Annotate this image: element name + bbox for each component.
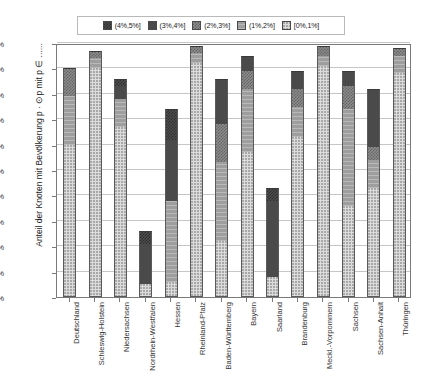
bar-segment[interactable] bbox=[367, 89, 380, 147]
bar-segment[interactable] bbox=[215, 124, 228, 162]
x-tick-mark bbox=[373, 298, 374, 302]
y-tick-mark bbox=[52, 120, 56, 121]
x-tick-mark bbox=[221, 298, 222, 302]
x-tick-label: Schleswig-Holstein bbox=[97, 302, 106, 365]
legend-entry: (1%,2%] bbox=[237, 21, 275, 30]
x-tick-label: Meckl.-Vorpommern bbox=[325, 302, 334, 369]
chart-legend: (4%,5%](3%,4%](2%,3%](1%,2%][0%,1%] bbox=[77, 16, 345, 35]
gray-solid-swatch bbox=[237, 21, 246, 30]
bar-segment[interactable] bbox=[63, 145, 76, 297]
bar-stack[interactable] bbox=[241, 56, 254, 297]
bar-stack[interactable] bbox=[63, 68, 76, 297]
bar-segment[interactable] bbox=[165, 201, 178, 282]
x-tick-mark bbox=[246, 298, 247, 302]
bar-stack[interactable] bbox=[393, 48, 406, 297]
bar-stack[interactable] bbox=[89, 51, 102, 297]
bar-stack[interactable] bbox=[317, 46, 330, 297]
bar-segment[interactable] bbox=[393, 56, 406, 74]
bar-segment[interactable] bbox=[139, 284, 152, 297]
legend-entry: (3%,4%] bbox=[148, 21, 186, 30]
bar-segment[interactable] bbox=[241, 71, 254, 89]
bar-stack[interactable] bbox=[342, 71, 355, 297]
bar-segment[interactable] bbox=[291, 71, 304, 89]
bar-segment[interactable] bbox=[291, 89, 304, 107]
bar-segment[interactable] bbox=[342, 86, 355, 109]
bar-segment[interactable] bbox=[291, 137, 304, 297]
y-tick-label: 0% bbox=[0, 294, 4, 303]
bar-segment[interactable] bbox=[190, 46, 203, 54]
bar-segment[interactable] bbox=[215, 241, 228, 297]
bar-segment[interactable] bbox=[317, 66, 330, 297]
bar-stack[interactable] bbox=[266, 188, 279, 297]
mid-checkered-swatch bbox=[192, 21, 201, 30]
y-tick-mark bbox=[52, 95, 56, 96]
y-tick-mark bbox=[52, 171, 56, 172]
gridline bbox=[57, 42, 410, 43]
x-tick-label: Deutschland bbox=[72, 302, 81, 344]
x-tick-mark bbox=[297, 298, 298, 302]
x-tick-label: Brandenburg bbox=[300, 302, 309, 345]
bar-segment[interactable] bbox=[291, 107, 304, 137]
bar-segment[interactable] bbox=[393, 48, 406, 56]
bar-stack[interactable] bbox=[190, 46, 203, 297]
stacked-bar-chart: (4%,5%](3%,4%](2%,3%](1%,2%][0%,1%] 0%10… bbox=[0, 0, 423, 388]
bar-segment[interactable] bbox=[367, 160, 380, 188]
bar-segment[interactable] bbox=[215, 79, 228, 125]
x-tick-mark bbox=[348, 298, 349, 302]
bar-stack[interactable] bbox=[367, 89, 380, 297]
bar-segment[interactable] bbox=[114, 86, 127, 99]
x-tick-mark bbox=[119, 298, 120, 302]
x-tick-label: Bayern bbox=[249, 302, 258, 326]
bar-segment[interactable] bbox=[190, 53, 203, 63]
bar-segment[interactable] bbox=[114, 79, 127, 87]
bar-segment[interactable] bbox=[114, 99, 127, 127]
bar-segment[interactable] bbox=[317, 56, 330, 66]
bar-segment[interactable] bbox=[165, 140, 178, 201]
bar-segment[interactable] bbox=[63, 68, 76, 96]
bar-segment[interactable] bbox=[139, 244, 152, 285]
bar-segment[interactable] bbox=[114, 127, 127, 297]
bar-segment[interactable] bbox=[266, 277, 279, 297]
bar-segment[interactable] bbox=[393, 73, 406, 297]
bar-segment[interactable] bbox=[342, 109, 355, 206]
bar-segment[interactable] bbox=[342, 206, 355, 297]
y-tick-mark bbox=[52, 273, 56, 274]
y-tick-label: 70% bbox=[0, 116, 4, 125]
bar-segment[interactable] bbox=[215, 162, 228, 241]
bar-segment[interactable] bbox=[266, 201, 279, 277]
bar-segment[interactable] bbox=[190, 63, 203, 297]
x-tick-label: Saarland bbox=[275, 302, 284, 332]
y-tick-mark bbox=[52, 69, 56, 70]
bar-segment[interactable] bbox=[317, 46, 330, 56]
bar-stack[interactable] bbox=[215, 79, 228, 297]
light-dotted-swatch bbox=[282, 21, 291, 30]
x-tick-label: Sachsen bbox=[351, 302, 360, 331]
x-tick-mark bbox=[94, 298, 95, 302]
plot-area bbox=[56, 44, 411, 298]
x-tick-label: Hessen bbox=[173, 302, 182, 327]
bar-segment[interactable] bbox=[165, 109, 178, 139]
bar-segment[interactable] bbox=[241, 89, 254, 153]
bar-segment[interactable] bbox=[367, 188, 380, 297]
legend-entry-label: (3%,4%] bbox=[160, 22, 186, 29]
bar-segment[interactable] bbox=[165, 282, 178, 297]
bar-segment[interactable] bbox=[139, 231, 152, 244]
bar-segment[interactable] bbox=[241, 152, 254, 297]
bar-segment[interactable] bbox=[367, 147, 380, 160]
y-tick-mark bbox=[52, 44, 56, 45]
bar-segment[interactable] bbox=[89, 58, 102, 68]
bar-segment[interactable] bbox=[342, 71, 355, 86]
x-tick-label: Rheinland-Pfalz bbox=[198, 302, 207, 355]
bar-segment[interactable] bbox=[89, 68, 102, 297]
bar-segment[interactable] bbox=[89, 51, 102, 59]
bar-segment[interactable] bbox=[63, 96, 76, 144]
bar-stack[interactable] bbox=[291, 71, 304, 297]
y-tick-label: 100% bbox=[0, 40, 4, 49]
bar-segment[interactable] bbox=[266, 188, 279, 201]
bar-stack[interactable] bbox=[139, 231, 152, 297]
bar-stack[interactable] bbox=[165, 109, 178, 297]
bar-segment[interactable] bbox=[241, 56, 254, 71]
bar-stack[interactable] bbox=[114, 79, 127, 297]
y-tick-label: 30% bbox=[0, 218, 4, 227]
x-tick-label: Sachsen-Anhalt bbox=[376, 302, 385, 355]
